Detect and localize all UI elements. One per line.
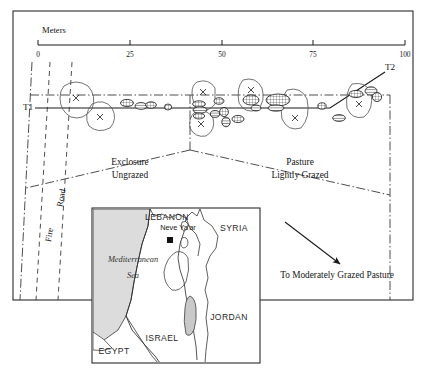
figure-container: Meters 0 25 50 75 100 Fire Road T1 T2: [0, 0, 427, 369]
shrub-patch: [121, 99, 134, 106]
sea-of-galilee: [181, 238, 188, 249]
axis-title: Meters: [42, 25, 67, 35]
map-inset: Neve Ya'ar Mediterranean Sea LEBANON SYR…: [92, 208, 260, 363]
shrub-patch: [193, 101, 206, 107]
transect-figure: Meters 0 25 50 75 100 Fire Road T1 T2: [0, 0, 427, 369]
zone-label-line2: Lightly Grazed: [271, 170, 328, 180]
shrub-patch: [210, 111, 219, 118]
axis-tick-label: 0: [36, 50, 40, 59]
shrub-patch: [164, 104, 171, 110]
zone-label-line1: Pasture: [286, 157, 314, 167]
shrub-patch: [222, 117, 230, 127]
shrub-patch: [243, 95, 259, 105]
zone-label-line1: Exclosure: [111, 157, 149, 167]
shrub-patch: [214, 98, 224, 105]
shrub-patch: [193, 107, 207, 113]
shrub-patch: [135, 103, 147, 110]
axis-tick-label: 25: [126, 50, 134, 59]
shrub-patch: [146, 102, 157, 108]
shrub-patch: [232, 115, 244, 122]
country-label-syria: SYRIA: [220, 223, 248, 233]
site-label: Neve Ya'ar: [160, 223, 196, 232]
arrow-caption: To Moderately Grazed Pasture: [280, 270, 394, 280]
axis-tick-label: 75: [309, 50, 317, 59]
shrub-patch: [372, 92, 381, 101]
transect-end-label: T2: [385, 62, 396, 72]
country-label-egypt: EGYPT: [98, 346, 129, 356]
country-label-lebanon: LEBANON: [145, 212, 189, 222]
dead-sea: [184, 296, 196, 335]
shrub-patch: [193, 113, 204, 119]
shrub-patch: [333, 115, 346, 122]
shrub-patch: [251, 105, 261, 111]
shrub-patch: [349, 90, 363, 97]
shrub-patch: [268, 105, 284, 111]
axis-tick-label: 50: [218, 50, 226, 59]
shrub-patch: [220, 107, 229, 116]
sea-label-line2: Sea: [127, 271, 139, 280]
sea-label-line1: Mediterranean: [107, 255, 158, 264]
country-label-jordan: JORDAN: [210, 312, 248, 322]
axis-tick-label: 100: [399, 50, 410, 59]
shrub-patch: [266, 94, 290, 106]
zone-label-line2: Ungrazed: [112, 170, 149, 180]
site-marker: [167, 237, 173, 243]
shrub-patch: [318, 103, 326, 109]
country-label-israel: ISRAEL: [146, 333, 179, 343]
transect-start-label: T1: [23, 102, 34, 112]
